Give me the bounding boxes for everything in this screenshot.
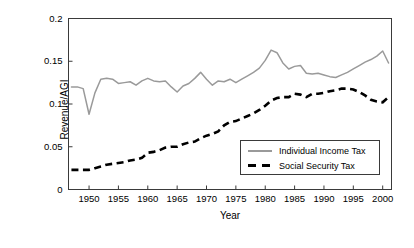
y-tick-label: 0.15	[19, 55, 63, 66]
solid-line-swatch-icon	[247, 146, 273, 156]
x-tick-label: 2000	[363, 193, 403, 204]
legend-label: Individual Income Tax	[279, 146, 365, 156]
x-axis-title: Year	[68, 210, 392, 221]
dashed-line-swatch-icon	[247, 161, 273, 171]
y-tick-label: 0	[19, 184, 63, 195]
chart-legend: Individual Income Tax Social Security Ta…	[240, 140, 380, 175]
legend-item-social-security-tax: Social Security Tax	[247, 159, 355, 173]
y-tick-label: 0.2	[19, 13, 63, 24]
legend-label: Social Security Tax	[279, 161, 355, 171]
y-tick-label: 0.05	[19, 141, 63, 152]
chart-figure: Revenue/AGI Year 00.050.10.150.2 1950195…	[0, 0, 414, 248]
legend-item-individual-income-tax: Individual Income Tax	[247, 144, 365, 158]
y-tick-label: 0.1	[19, 98, 63, 109]
